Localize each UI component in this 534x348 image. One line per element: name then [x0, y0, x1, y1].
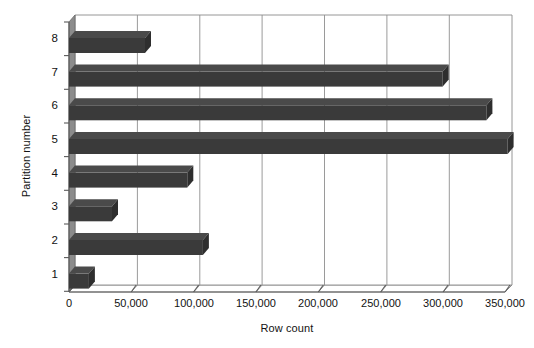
y-tick-label-3: 3: [32, 200, 58, 212]
bar-partition-5: [69, 132, 514, 154]
bar-partition-8: [69, 31, 151, 53]
x-tick-label-0: 0: [44, 297, 94, 309]
bar-chart: Partition number: [0, 0, 534, 348]
x-tick-label-50000: 50,000: [96, 297, 166, 309]
bar-partition-3: [69, 199, 118, 221]
x-tick-label-350000: 350,000: [468, 297, 534, 309]
y-tick-label-4: 4: [32, 167, 58, 179]
y-tick-label-2: 2: [32, 234, 58, 246]
y-tick-label-5: 5: [32, 133, 58, 145]
bar-partition-2: [69, 233, 209, 255]
plot-area: [0, 0, 534, 348]
bar-partition-1: [69, 267, 95, 289]
y-axis-ticks: [64, 22, 69, 291]
y-tick-label-6: 6: [32, 99, 58, 111]
bar-partition-7: [69, 65, 449, 87]
bar-partition-4: [69, 166, 193, 188]
y-tick-label-1: 1: [32, 268, 58, 280]
bar-partition-6: [69, 98, 492, 120]
x-axis-title: Row count: [69, 322, 505, 334]
y-tick-label-8: 8: [32, 32, 58, 44]
y-tick-label-7: 7: [32, 66, 58, 78]
